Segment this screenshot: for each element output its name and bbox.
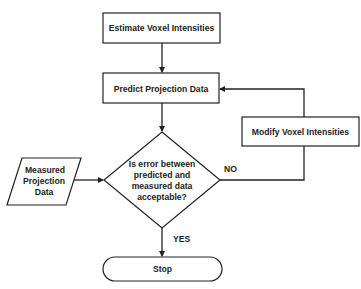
edge-modify-to-predict (220, 89, 304, 117)
node-stop-label: Stop (153, 264, 172, 274)
node-estimate-voxel-intensities: Estimate Voxel Intensities (103, 13, 220, 43)
node-measured-line-3: Data (35, 187, 54, 197)
node-measured-projection-data: Measured Projection Data (7, 158, 81, 205)
edge-label-yes: YES (173, 234, 190, 244)
node-decision-line-2: predicted and (134, 170, 190, 180)
flowchart-canvas: Estimate Voxel Intensities Predict Proje… (0, 0, 361, 289)
node-decision-error-acceptable: Is error between predicted and measured … (104, 132, 220, 228)
node-decision-line-1: Is error between (129, 159, 195, 169)
node-predict-projection-data: Predict Projection Data (103, 73, 219, 103)
edge-decision-to-modify (220, 146, 304, 180)
edge-label-no: NO (224, 164, 237, 174)
node-stop: Stop (103, 257, 222, 281)
node-predict-label: Predict Projection Data (114, 84, 209, 94)
node-modify-label: Modify Voxel Intensities (252, 127, 349, 137)
node-estimate-label: Estimate Voxel Intensities (109, 23, 215, 33)
node-decision-line-3: measured data (132, 181, 193, 191)
node-measured-line-2: Projection (23, 176, 65, 186)
node-measured-line-1: Measured (25, 165, 65, 175)
node-modify-voxel-intensities: Modify Voxel Intensities (242, 117, 359, 146)
node-decision-line-4: acceptable? (137, 192, 187, 202)
